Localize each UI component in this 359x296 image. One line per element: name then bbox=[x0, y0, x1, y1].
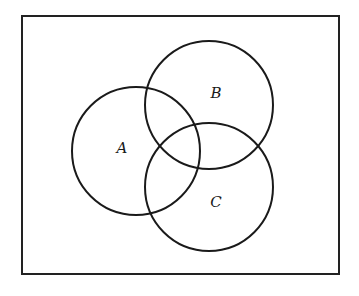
set-a-circle bbox=[72, 87, 200, 215]
set-c-circle bbox=[145, 123, 273, 251]
set-a-label: A bbox=[115, 139, 128, 157]
universe-rectangle bbox=[22, 16, 339, 274]
set-c-label: C bbox=[210, 193, 222, 211]
set-b-label: B bbox=[209, 84, 221, 102]
venn-diagram: ABC bbox=[0, 0, 359, 296]
set-b-circle bbox=[145, 41, 273, 169]
